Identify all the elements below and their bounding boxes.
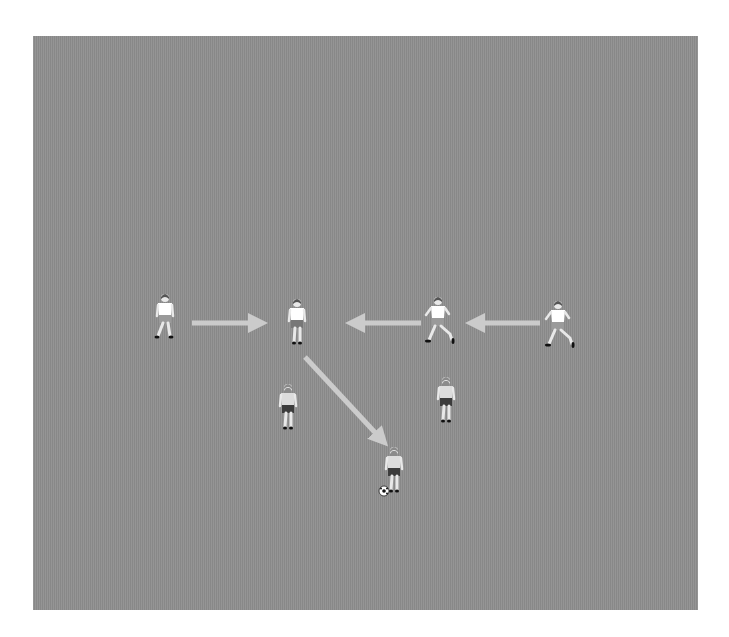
player-figure-p2 [289,299,305,345]
movement-arrows [192,323,540,440]
player-figure-p4 [545,301,575,348]
soccer-ball-icon [379,486,389,496]
player-figure-p3 [425,297,455,344]
arrow-down-right-icon [305,357,382,440]
player-figure-p1 [155,294,174,339]
player-figure-p6 [438,377,454,423]
drill-diagram [0,0,729,637]
player-figure-p5 [280,384,296,430]
player-figure-p7 [386,447,402,493]
